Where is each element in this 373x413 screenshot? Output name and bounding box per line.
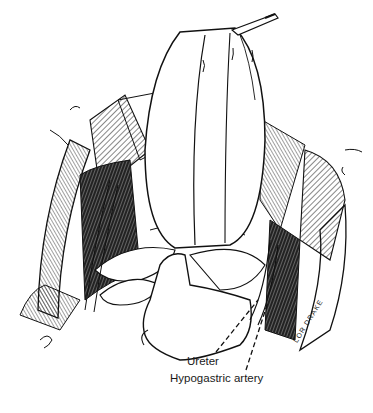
uterus [145,28,265,248]
left-abdominal-wall [20,92,160,348]
surgical-illustration: Ureter Hypogastric artery LOR DRAKE [0,0,373,413]
surgical-clamp [232,14,278,35]
ureter-label: Ureter [187,355,219,367]
illustration-drawing [0,0,373,413]
hypogastric-artery-label: Hypogastric artery [170,372,263,384]
